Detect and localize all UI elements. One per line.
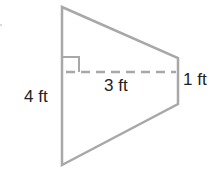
height-label: 3 ft xyxy=(104,77,128,94)
right-angle-marker xyxy=(63,57,79,72)
left-side-label: 4 ft xyxy=(24,88,48,105)
right-side-label: 1 ft xyxy=(183,71,207,88)
stray-dot xyxy=(0,24,2,26)
